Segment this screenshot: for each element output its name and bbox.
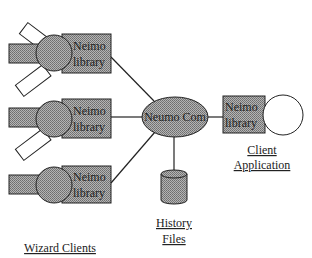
library-label-line2: library: [73, 120, 105, 134]
client-application: Neimo library Client Application: [223, 95, 303, 172]
history-label-line1: History: [156, 216, 192, 230]
wizard-client-1: Neimo library: [9, 23, 111, 97]
wand-lower-icon: [15, 65, 51, 97]
client-app-circle-icon: [263, 95, 303, 135]
wizard-clients-label: Wizard Clients: [24, 241, 96, 255]
library-label-line2: library: [225, 116, 257, 130]
history-label-line2: Files: [162, 232, 186, 246]
library-label-line1: Neimo: [225, 100, 258, 114]
wizard-client-3: Neimo library: [9, 166, 111, 203]
connector-top-wizard: [111, 57, 154, 101]
diagram-canvas: Neimo library Neimo library Neimo librar…: [0, 0, 312, 258]
library-label-line1: Neimo: [73, 104, 106, 118]
database-cylinder-top: [161, 170, 187, 178]
hub-label: Neumo Com: [144, 110, 206, 124]
client-app-label-line1: Client: [247, 143, 277, 157]
library-label-line2: library: [73, 186, 105, 200]
library-label-line1: Neimo: [73, 39, 106, 53]
library-label-line2: library: [73, 55, 105, 69]
history-files: History Files: [156, 170, 192, 246]
wizard-head-icon: [36, 101, 72, 137]
library-label-line1: Neimo: [73, 170, 106, 184]
wizard-client-2: Neimo library: [9, 99, 111, 160]
wizard-head-icon: [36, 167, 72, 203]
wizard-head-icon: [36, 35, 72, 71]
neumo-com-hub: Neumo Com: [142, 97, 208, 137]
connector-bottom-wizard: [111, 132, 155, 183]
client-app-label-line2: Application: [234, 158, 291, 172]
